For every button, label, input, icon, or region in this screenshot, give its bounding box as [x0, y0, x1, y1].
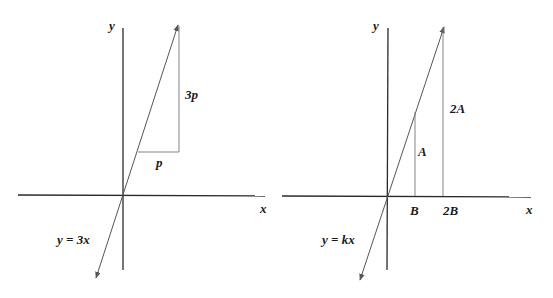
- left-run-label: p: [155, 155, 163, 170]
- left-line-y-3x: [96, 25, 178, 278]
- right-x-axis-label: x: [525, 202, 533, 217]
- right-y-axis: [387, 28, 388, 270]
- right-line-equation: y = kx: [320, 232, 355, 247]
- right-y-axis-label: y: [371, 18, 379, 33]
- right-height-A-label: A: [417, 144, 427, 159]
- left-rise-label: 3p: [184, 87, 199, 102]
- left-diagram: y 3p p x y = 3x: [18, 18, 267, 278]
- right-x-tick-B: B: [409, 203, 419, 218]
- left-y-axis-label: y: [107, 18, 115, 33]
- right-line-y-kx: [360, 27, 444, 280]
- left-x-axis: [18, 195, 265, 196]
- right-height-2A-label: 2A: [449, 101, 466, 116]
- right-diagram: y 2A A B 2B x y = kx: [282, 18, 533, 280]
- diagram-canvas: y 3p p x y = 3x y 2A A B 2B x y = kx: [0, 0, 553, 298]
- right-x-axis: [282, 196, 531, 197]
- left-x-axis-label: x: [259, 201, 267, 216]
- left-line-equation: y = 3x: [55, 232, 90, 247]
- right-x-tick-2B: 2B: [442, 203, 459, 218]
